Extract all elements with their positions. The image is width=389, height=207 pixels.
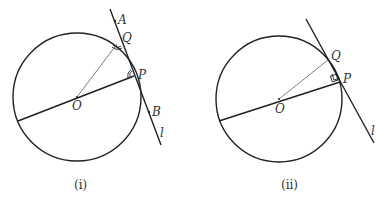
caption-i: (i) [74,178,87,192]
radius-oq-i [77,44,117,97]
point-o-ii [278,98,280,100]
point-a [114,20,116,22]
point-o-i [76,96,78,98]
figure-ii: Q P O l (ii) [216,19,375,192]
figure-i: A Q P O B l (i) [13,9,164,192]
label-p-i: P [137,68,147,82]
label-o-i: O [72,99,82,113]
label-l-i: l [160,126,164,140]
label-a: A [117,13,127,27]
tangent-line-ii [306,19,374,143]
label-p-ii: P [342,72,352,86]
label-q-i: Q [122,31,132,45]
caption-ii: (ii) [281,178,298,192]
label-b: B [151,105,161,119]
right-angle-square [330,74,338,82]
label-l-ii: l [371,124,375,138]
label-q-ii: Q [331,49,341,63]
tangent-diagrams: A Q P O B l (i) Q P O l (ii) [0,0,389,207]
label-o-ii: O [275,102,285,116]
point-b [148,111,150,113]
